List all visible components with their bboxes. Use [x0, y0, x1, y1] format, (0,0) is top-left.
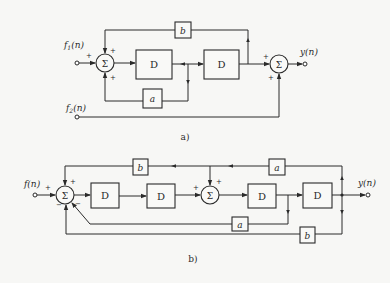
delay-label: D [313, 190, 321, 201]
sign-sum2-left: + [193, 184, 199, 192]
label-f: f(n) [23, 179, 41, 189]
output-terminal-y [366, 193, 370, 197]
caption-a: a) [181, 132, 190, 142]
sign-sum1-top: + [110, 47, 116, 55]
delay-label: D [150, 59, 158, 70]
gain-label: b [138, 163, 144, 173]
gain-label-b: b [180, 26, 186, 36]
sign-sum1-bottom: − [56, 201, 62, 209]
sign-sum2-left: + [263, 53, 269, 61]
label-f1: f1(n) [63, 40, 84, 51]
block-diagrams: f1(n) + Σ + + D D + b a Σ + [0, 0, 390, 283]
delay-label: D [101, 190, 109, 201]
output-terminal-y [303, 62, 307, 66]
delay-label: D [217, 59, 225, 70]
sigma-symbol: Σ [207, 191, 213, 201]
sign-sum1-top: + [70, 178, 76, 186]
label-f2: f2(n) [65, 103, 86, 114]
input-terminal-f1 [75, 61, 79, 65]
delay-label: D [258, 191, 266, 202]
sigma-symbol: Σ [276, 60, 282, 70]
label-y: y(n) [357, 178, 376, 188]
label-y: y(n) [299, 47, 318, 57]
caption-b: b) [188, 254, 197, 264]
sign-sum1-input: + [86, 52, 92, 60]
input-terminal-f2 [75, 115, 79, 119]
sign-sum2-bottom: + [268, 74, 274, 82]
wire-f2-to-sum2 [79, 74, 279, 117]
gain-label: b [305, 231, 311, 241]
gain-label: a [237, 220, 242, 230]
gain-label-a: a [150, 94, 155, 104]
sigma-symbol: Σ [102, 59, 108, 69]
diagram-b: f(n) + Σ + − − D D + Σ + D D y( [23, 159, 376, 264]
gain-label: a [274, 163, 279, 173]
input-terminal-f [33, 193, 37, 197]
sign-sum1-bottom: + [110, 74, 116, 82]
diagram-a: f1(n) + Σ + + D D + b a Σ + [63, 22, 318, 142]
sign-sum1-input: + [45, 184, 51, 192]
sigma-symbol: Σ [62, 191, 68, 201]
wire-bottom-to-sum1 [66, 205, 300, 234]
delay-label: D [157, 191, 165, 202]
sign-sum2-top: + [216, 178, 222, 186]
